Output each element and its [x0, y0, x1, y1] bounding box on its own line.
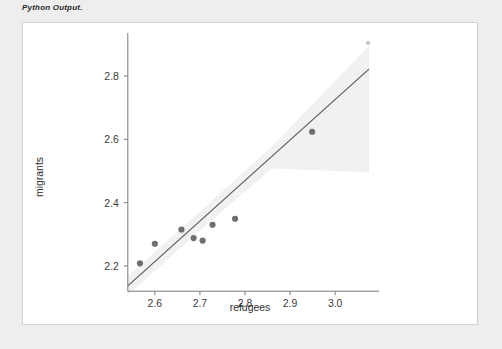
y-tick-label: 2.2	[104, 261, 119, 272]
y-tick-label: 2.6	[104, 134, 119, 145]
data-point	[152, 241, 158, 247]
data-point	[366, 41, 370, 45]
data-point	[309, 129, 315, 135]
page-title: Python Output.	[22, 3, 83, 12]
x-axis-label: refugees	[230, 302, 271, 313]
y-tick-label: 2.4	[104, 198, 119, 209]
x-tick-label: 2.7	[193, 298, 208, 309]
data-point	[137, 260, 143, 266]
regression-line	[128, 69, 369, 286]
data-point	[209, 222, 215, 228]
x-tick-label: 2.9	[283, 298, 298, 309]
y-axis-label: migrants	[34, 157, 45, 197]
data-point	[191, 235, 197, 241]
scatter-plot: 2.22.42.62.82.62.72.82.93.0 refugees mig…	[23, 23, 477, 324]
regression-line-path	[128, 69, 369, 286]
x-tick-label: 2.6	[148, 298, 163, 309]
data-point	[232, 216, 238, 222]
data-point	[178, 226, 184, 232]
figure-container: 2.22.42.62.82.62.72.82.93.0 refugees mig…	[22, 22, 478, 325]
data-point	[200, 238, 206, 244]
x-tick-label: 3.0	[328, 298, 343, 309]
confidence-band-shape	[128, 46, 369, 295]
y-tick-label: 2.8	[104, 71, 119, 82]
confidence-band	[128, 46, 369, 295]
